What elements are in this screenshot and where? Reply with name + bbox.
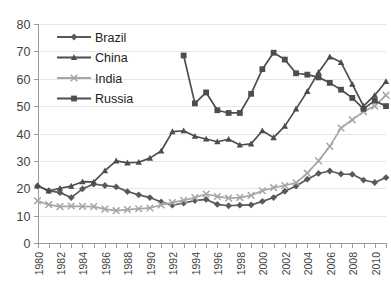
- data-point: [124, 188, 131, 195]
- data-point: [315, 170, 322, 177]
- data-point: [383, 174, 390, 181]
- ytick-label: 20: [17, 182, 31, 196]
- data-point: [237, 110, 243, 116]
- data-point: [71, 96, 77, 102]
- data-point: [316, 74, 322, 80]
- data-point: [259, 66, 265, 72]
- data-point: [236, 202, 243, 209]
- data-point: [270, 194, 277, 201]
- xtick-label: 1986: [100, 252, 112, 276]
- data-point: [181, 53, 187, 59]
- data-point: [304, 72, 310, 78]
- xtick-label: 1994: [190, 252, 202, 276]
- ytick-label: 60: [17, 73, 31, 87]
- data-point: [338, 87, 344, 93]
- data-point: [271, 50, 277, 56]
- xtick-label: 1988: [122, 252, 134, 276]
- xtick-label: 1982: [55, 252, 67, 276]
- legend-label-india: India: [95, 72, 122, 86]
- data-point: [383, 92, 390, 99]
- xtick-label: 2010: [370, 252, 382, 276]
- cropped-title-strip: [0, 0, 391, 12]
- data-point: [304, 170, 311, 177]
- data-point: [372, 98, 378, 104]
- data-point: [282, 57, 288, 63]
- data-point: [327, 54, 333, 60]
- data-point: [360, 177, 367, 184]
- ytick-label: 30: [17, 155, 31, 169]
- data-point: [383, 103, 389, 109]
- data-point: [259, 127, 265, 133]
- data-point: [338, 171, 345, 178]
- series-russia: [181, 50, 389, 116]
- data-point: [214, 201, 221, 208]
- data-point: [192, 100, 198, 106]
- data-point: [371, 179, 378, 186]
- ytick-label: 40: [17, 128, 31, 142]
- data-point: [71, 34, 78, 41]
- ytick-label: 70: [17, 45, 31, 59]
- data-point: [326, 168, 333, 175]
- xtick-label: 1990: [145, 252, 157, 276]
- xtick-label: 2000: [257, 252, 269, 276]
- data-point: [349, 171, 356, 178]
- data-point: [248, 202, 255, 209]
- data-point: [326, 143, 333, 150]
- legend-label-china: China: [95, 51, 128, 65]
- data-point: [327, 80, 333, 86]
- data-point: [293, 70, 299, 76]
- data-point: [226, 110, 232, 116]
- data-point: [214, 107, 220, 113]
- xtick-label: 2008: [347, 252, 359, 276]
- xtick-label: 2004: [302, 252, 314, 276]
- legend-label-russia: Russia: [95, 92, 133, 106]
- data-point: [225, 202, 232, 209]
- xtick-label: 1992: [167, 252, 179, 276]
- data-point: [113, 183, 120, 190]
- xtick-label: 1984: [77, 252, 89, 276]
- legend-label-brazil: Brazil: [95, 31, 126, 45]
- line-chart: 0102030405060708019801982198419861988199…: [0, 0, 391, 284]
- chart-container: 0102030405060708019801982198419861988199…: [0, 0, 391, 284]
- data-point: [248, 91, 254, 97]
- xtick-label: 1980: [33, 252, 45, 276]
- ytick-label: 10: [17, 210, 31, 224]
- ytick-label: 80: [17, 18, 31, 32]
- data-point: [102, 182, 109, 189]
- data-point: [203, 90, 209, 96]
- data-point: [361, 106, 367, 112]
- series-line: [38, 95, 387, 211]
- xtick-label: 1998: [235, 252, 247, 276]
- data-point: [135, 191, 142, 198]
- data-point: [349, 81, 355, 87]
- data-point: [338, 125, 345, 132]
- ytick-label: 0: [24, 237, 31, 251]
- xtick-label: 1996: [212, 252, 224, 276]
- data-point: [259, 198, 266, 205]
- data-point: [349, 95, 355, 101]
- ytick-label: 50: [17, 100, 31, 114]
- data-point: [147, 194, 154, 201]
- chart-legend: BrazilChinaIndiaRussia: [57, 31, 133, 107]
- xtick-label: 2002: [280, 252, 292, 276]
- series-india: [34, 92, 389, 214]
- data-point: [315, 158, 322, 165]
- data-point: [349, 117, 356, 124]
- xtick-label: 2006: [325, 252, 337, 276]
